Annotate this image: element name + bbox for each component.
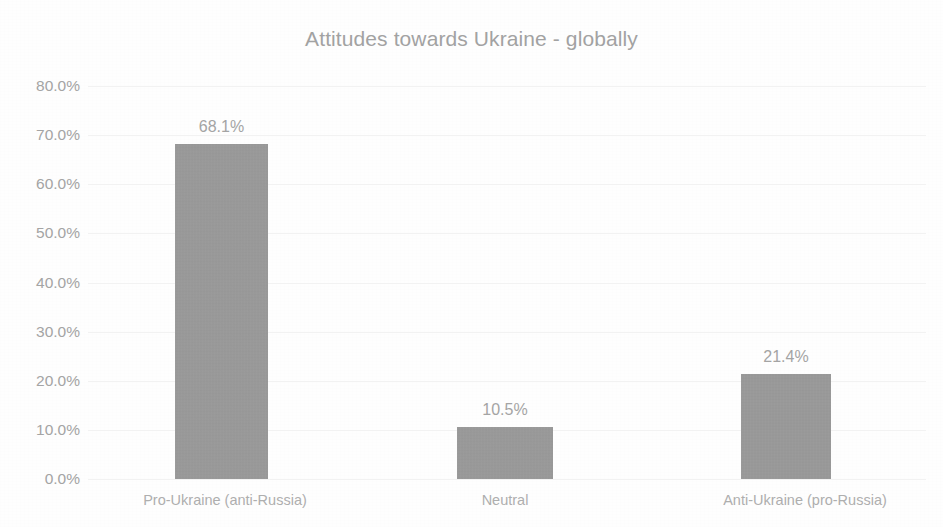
bar[interactable] [457,427,553,479]
gridline [88,479,926,480]
y-axis: 0.0%10.0%20.0%30.0%40.0%50.0%60.0%70.0%8… [0,86,80,479]
y-axis-tick-label: 70.0% [8,126,80,144]
y-axis-tick-label: 40.0% [8,274,80,292]
bar[interactable] [175,144,268,479]
y-axis-tick-label: 50.0% [8,224,80,242]
chart-title: Attitudes towards Ukraine - globally [0,27,943,51]
bar-value-label: 68.1% [142,118,302,136]
y-axis-tick-label: 80.0% [8,77,80,95]
x-axis-category-label: Neutral [440,492,570,508]
bar-value-label: 21.4% [706,348,866,366]
y-axis-tick-label: 30.0% [8,323,80,341]
y-axis-tick-label: 10.0% [8,421,80,439]
bar-group[interactable]: 68.1% [175,86,268,479]
x-axis-category-label: Anti-Ukraine (pro-Russia) [680,492,930,508]
y-axis-tick-label: 60.0% [8,175,80,193]
chart-container: Attitudes towards Ukraine - globally 0.0… [0,0,943,527]
bar-group[interactable]: 10.5% [457,86,553,479]
bar[interactable] [741,374,831,479]
bar-group[interactable]: 21.4% [741,86,831,479]
bar-value-label: 10.5% [425,401,585,419]
y-axis-tick-label: 20.0% [8,372,80,390]
x-axis-category-label: Pro-Ukraine (anti-Russia) [115,492,335,508]
plot-area: 68.1%10.5%21.4% [88,86,926,479]
y-axis-tick-label: 0.0% [8,470,80,488]
